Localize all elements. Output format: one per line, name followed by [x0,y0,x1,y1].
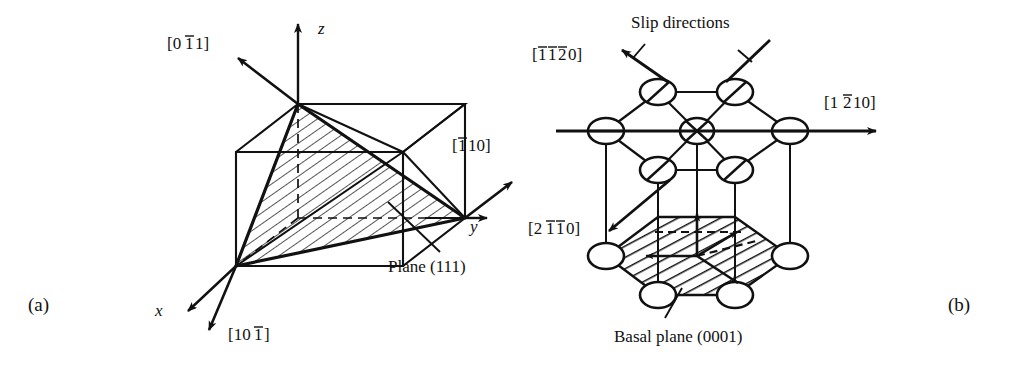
basal-plane-label: Basal plane (0001) [614,327,742,346]
slip-directions-label: Slip directions [631,13,730,32]
direction-label-1-2bar-1-0-pre: [1 [824,93,838,112]
lbl-b1-d1: 1 [538,45,547,64]
panel-a-group: z y x [0 1 1] [28,19,512,344]
direction-arrow-1bar-1bar-2bar-0 [622,50,668,82]
lbl-b3-d3: 1 [556,219,565,238]
direction-label-1bar-1-0-barred: 1 [458,136,467,155]
lbl-b3-tail: 0] [566,219,580,238]
atom [717,282,753,308]
z-axis-label: z [317,19,325,38]
x-axis-label: x [154,301,163,320]
direction-label-1-0-1bar-prefix: [10 [228,325,251,344]
direction-label-1-0-1bar-suffix: ] [264,325,270,344]
atom [717,79,753,105]
crystallography-diagram: z y x [0 1 1] [0,0,1021,365]
direction-label-0-1bar-1-prefix: [0 [167,34,181,53]
y-axis-label: y [468,217,478,236]
panel-b-group: [1 2 10] [ 1 1 2 0] [528,13,970,346]
direction-label-1-2bar-1-0-post: 10] [853,93,876,112]
figure-root: z y x [0 1 1] [0,0,1021,365]
panel-label-b: (b) [948,294,970,316]
direction-label-0-1bar-1: [0 1 1] [167,34,209,53]
direction-label-1bar-1-0-suffix: 10] [468,136,491,155]
atom [717,157,753,183]
panel-label-a: (a) [28,294,49,316]
atom [640,79,676,105]
atom [772,243,808,269]
lbl-b3-open: [2 [528,219,542,238]
direction-label-1-0-1bar: [10 1 ] [228,325,270,344]
slip-direction-arrow-upper-right [726,40,770,82]
direction-arrow-1bar-1-0 [465,182,512,218]
lbl-b3-d2: 1 [546,219,555,238]
atom [588,243,624,269]
x-axis [188,266,236,311]
direction-label-0-1bar-1-suffix: 1] [195,34,209,53]
lbl-b1-d2: 1 [548,45,557,64]
direction-label-1-2bar-1-0: [1 2 10] [824,93,876,112]
lbl-b1-d3: 2 [558,45,567,64]
direction-label-2-1bar-1bar-0: [2 1 1 0] [528,219,580,238]
direction-arrow-0-1bar-1 [238,58,298,104]
direction-label-1bar-1bar-2bar-0: [ 1 1 2 0] [532,45,582,64]
plane-111-label: Plane (111) [388,257,466,276]
direction-label-1-0-1bar-barred: 1 [254,325,263,344]
direction-label-0-1bar-1-barred: 1 [185,34,194,53]
lbl-b1-tail: 0] [568,45,582,64]
atom [640,282,676,308]
slip-direction-leaders [633,44,752,62]
direction-label-1-2bar-1-0-barred: 2 [843,93,852,112]
atom [640,157,676,183]
direction-arrow-1-0-1bar [209,266,236,330]
direction-label-1bar-1-0: [ 1 10] [452,136,491,155]
